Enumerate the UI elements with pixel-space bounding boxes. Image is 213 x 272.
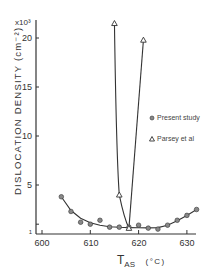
y-axis-label: DISLOCATION DENSITY (cm⁻²) bbox=[12, 27, 23, 195]
legend-markers bbox=[150, 116, 155, 141]
legend-present-study: Present study bbox=[157, 114, 200, 121]
parsey-right-branch bbox=[129, 40, 143, 228]
data-markers bbox=[59, 21, 199, 232]
x-axis-label-sub: AS bbox=[124, 260, 135, 269]
present-study-point bbox=[175, 218, 180, 223]
present-study-point bbox=[98, 218, 103, 223]
present-study-point bbox=[78, 220, 83, 225]
x-tick-610: 610 bbox=[79, 238, 103, 248]
present-study-point bbox=[146, 226, 151, 231]
x-tick-600: 600 bbox=[30, 238, 54, 248]
parsey-point bbox=[112, 21, 118, 26]
present-study-point bbox=[194, 207, 199, 212]
x-axis-label-unit: (°C) bbox=[145, 257, 165, 266]
present-study-point bbox=[88, 222, 93, 227]
present-study-point bbox=[156, 227, 161, 232]
present-study-point bbox=[165, 223, 170, 228]
present-study-point bbox=[59, 194, 64, 199]
x-axis-label: TAS (°C) bbox=[117, 250, 166, 268]
legend-parsey-et-al: Parsey et al bbox=[157, 135, 194, 142]
x-tick-620: 620 bbox=[127, 238, 151, 248]
present-study-point bbox=[136, 223, 141, 228]
fit-curves bbox=[61, 23, 196, 228]
legend-circle-icon bbox=[150, 116, 154, 120]
parsey-point bbox=[116, 192, 122, 197]
present-study-point bbox=[107, 225, 112, 230]
legend-triangle-icon bbox=[150, 137, 155, 142]
present-study-point bbox=[185, 213, 190, 218]
parsey-point bbox=[141, 37, 147, 42]
x-tick-630: 630 bbox=[175, 238, 199, 248]
y-multiplier-label: x10³ bbox=[15, 18, 31, 27]
y-tick-1: 1 bbox=[14, 229, 32, 235]
present-study-point bbox=[69, 209, 74, 214]
present-study-point bbox=[117, 225, 122, 230]
